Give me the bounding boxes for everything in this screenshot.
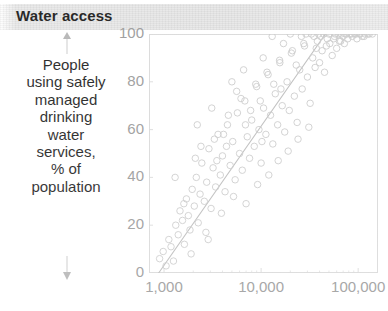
scatter-point <box>263 131 270 138</box>
y-tick-label: 60 <box>98 120 144 137</box>
scatter-point <box>229 138 236 145</box>
scatter-point <box>224 122 231 129</box>
scatter-point <box>179 217 186 224</box>
scatter-point <box>259 138 266 145</box>
scatter-point <box>222 188 229 195</box>
scatter-point <box>296 67 303 74</box>
scatter-point <box>321 69 328 76</box>
x-tick-label: 10,000 <box>238 278 284 295</box>
scatter-point <box>264 69 271 76</box>
y-axis-ticks: 020406080100 <box>96 0 144 311</box>
scatter-point <box>279 102 286 109</box>
scatter-point <box>168 243 175 250</box>
trend-line <box>159 34 326 273</box>
scatter-point <box>172 222 179 229</box>
x-tick-label: 1,000 <box>145 278 183 295</box>
scatter-point <box>269 34 276 40</box>
y-tick-label: 20 <box>98 215 144 232</box>
scatter-point <box>252 81 259 88</box>
scatter-point <box>156 255 163 262</box>
scatter-point <box>307 100 314 107</box>
scatter-point <box>218 210 225 217</box>
scatter-point <box>197 191 204 198</box>
scatter-point <box>287 34 294 37</box>
scatter-point <box>271 81 278 88</box>
scatter-point <box>225 112 232 119</box>
scatter-point <box>333 45 340 52</box>
scatter-point <box>208 205 215 212</box>
scatter-point <box>243 200 250 207</box>
scatter-point <box>177 208 184 215</box>
scatter-point <box>291 93 298 100</box>
scatter-point <box>260 105 267 112</box>
scatter-point <box>203 229 210 236</box>
scatter-point <box>299 86 306 93</box>
scatter-point <box>309 55 316 62</box>
scatter-point <box>199 160 206 167</box>
scatter-plot <box>149 34 378 273</box>
arrow-up-icon <box>61 30 73 54</box>
scatter-point <box>232 177 239 184</box>
scatter-point <box>242 122 249 129</box>
scatter-point <box>203 179 210 186</box>
scatter-point <box>233 88 240 95</box>
scatter-point <box>205 236 212 243</box>
scatter-point <box>247 107 254 114</box>
scatter-point <box>274 122 281 129</box>
scatter-point <box>293 62 300 69</box>
x-tick-label: 100,000 <box>331 278 385 295</box>
scatter-point <box>223 143 230 150</box>
y-tick-label: 40 <box>98 167 144 184</box>
scatter-point <box>227 162 234 169</box>
scatter-point <box>185 212 192 219</box>
scatter-point <box>285 148 292 155</box>
scatter-point <box>295 136 302 143</box>
scatter-point <box>166 236 173 243</box>
scatter-point <box>275 157 282 164</box>
scatter-point <box>160 248 167 255</box>
y-tick-label: 0 <box>98 263 144 280</box>
scatter-point <box>272 91 279 98</box>
scatter-point <box>198 143 205 150</box>
scatter-point <box>306 124 313 130</box>
scatter-point <box>206 145 213 152</box>
scatter-point <box>289 47 296 54</box>
scatter-point <box>258 160 265 167</box>
scatter-point <box>208 105 215 112</box>
scatter-point <box>175 232 182 239</box>
scatter-point <box>314 38 321 45</box>
scatter-point <box>260 55 267 62</box>
scatter-point <box>266 172 273 179</box>
scatter-point <box>191 203 198 210</box>
scatter-point <box>281 129 288 136</box>
scatter-point <box>192 155 199 162</box>
scatter-point <box>286 107 293 114</box>
scatter-point <box>316 59 323 66</box>
y-tick-label: 100 <box>98 24 144 41</box>
scatter-point <box>195 220 202 227</box>
scatter-point <box>193 174 200 181</box>
scatter-point <box>313 45 320 52</box>
scatter-point <box>170 258 177 265</box>
scatter-point <box>230 193 237 200</box>
arrow-down-icon <box>61 256 73 282</box>
scatter-point <box>214 157 221 164</box>
chart-figure: Water access People using safely managed… <box>0 0 388 311</box>
scatter-point <box>294 119 301 126</box>
scatter-point <box>189 186 196 193</box>
scatter-point <box>240 67 247 74</box>
scatter-point <box>251 143 258 150</box>
scatter-point <box>234 110 241 117</box>
scatter-point <box>239 167 246 174</box>
scatter-point <box>188 251 195 258</box>
scatter-point <box>254 181 261 188</box>
scatter-point <box>217 172 224 179</box>
scatter-point <box>229 79 236 86</box>
scatter-point <box>244 134 251 141</box>
scatter-point <box>172 174 179 181</box>
y-tick-label: 80 <box>98 72 144 89</box>
scatter-point <box>280 40 287 47</box>
scatter-point <box>304 74 311 81</box>
scatter-point <box>257 98 264 105</box>
scatter-point <box>201 198 208 205</box>
